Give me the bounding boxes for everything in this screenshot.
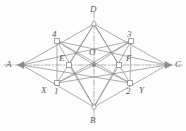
point-label-O: O (89, 48, 96, 57)
point-marker-P4 (55, 39, 60, 44)
point-marker-P2 (128, 81, 133, 86)
point-marker-O (92, 63, 96, 67)
point-marker-F (117, 63, 122, 68)
point-label-F: F (126, 54, 132, 63)
point-marker-P3 (129, 39, 134, 44)
point-label-Y: Y (139, 86, 144, 95)
point-label-D: D (90, 5, 97, 14)
figure-canvas (0, 0, 186, 131)
point-label-B: B (90, 116, 96, 125)
point-marker-B (92, 105, 96, 109)
edge-A-P3 (22, 41, 131, 65)
point-label-P1: 1 (54, 87, 59, 96)
point-label-P3: 3 (127, 30, 132, 39)
point-marker-D (92, 22, 96, 26)
arrowhead-c (165, 61, 172, 68)
edge-A-D (22, 24, 94, 65)
point-label-P2: 2 (126, 87, 131, 96)
point-marker-P1 (55, 81, 60, 86)
geometry-figure: ADCB4312EFOXY (0, 0, 186, 131)
point-label-A: A (6, 60, 12, 69)
point-marker-E (67, 63, 72, 68)
point-label-P4: 4 (52, 30, 57, 39)
point-label-E: E (59, 54, 65, 63)
point-label-X: X (41, 86, 47, 95)
point-label-C: C (175, 60, 181, 69)
arrowhead-a (17, 61, 24, 68)
